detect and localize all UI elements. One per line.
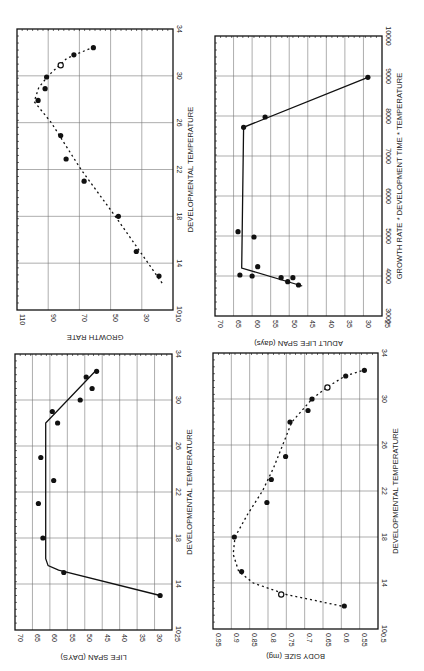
x-tick-label: 14: [175, 580, 182, 588]
x-tick-label: 34: [381, 349, 388, 357]
y-axis-label: BODY SIZE (mg): [266, 652, 325, 661]
data-point: [38, 455, 43, 460]
data-point: [365, 75, 370, 80]
y-tick-label: 90: [50, 314, 57, 322]
x-tick-label: 26: [381, 441, 388, 449]
data-point: [235, 229, 240, 234]
data-point: [43, 86, 48, 91]
y-axis-label: ADULT LIFE SPAN (days): [254, 339, 343, 348]
y-tick-label: 60: [51, 634, 58, 642]
y-tick-label: 70: [81, 314, 88, 322]
data-point: [279, 592, 284, 597]
x-tick-label: 34: [175, 350, 182, 358]
data-point: [285, 279, 290, 284]
data-point: [61, 570, 66, 575]
x-tick-label: 14: [176, 259, 183, 267]
data-point: [343, 373, 348, 378]
y-tick-label: 50: [112, 314, 119, 322]
y-tick-label: 25: [174, 634, 181, 642]
x-tick-label: 22: [175, 488, 182, 496]
data-point: [50, 409, 55, 414]
y-tick-label: 65: [34, 634, 41, 642]
data-point: [55, 420, 60, 425]
figure: 103050709011010141822263034DEVELOPMENTAL…: [0, 0, 424, 671]
y-tick-label: 70: [17, 634, 24, 642]
x-tick-label: 18: [175, 534, 182, 542]
y-tick-label: 0.95: [215, 633, 222, 647]
x-axis-label: DEVELOPMENTAL TEMPERATURE: [391, 428, 400, 554]
data-point: [237, 272, 242, 277]
y-tick-label: 30: [143, 314, 150, 322]
adult-life-span-panel: 2530354045505560657030004000500060007000…: [215, 26, 404, 348]
y-tick-label: 0.5: [380, 633, 387, 643]
data-point: [44, 74, 49, 79]
data-point: [94, 369, 99, 374]
x-tick-label: 3000: [385, 308, 392, 324]
y-tick-label: 0.8: [270, 633, 277, 643]
data-point: [290, 275, 295, 280]
y-tick-label: 40: [121, 634, 128, 642]
data-point: [279, 275, 284, 280]
y-tick-label: 10: [175, 314, 182, 322]
data-point: [296, 282, 301, 287]
data-point: [269, 477, 274, 482]
fit-line: [34, 48, 162, 283]
data-point: [91, 45, 96, 50]
data-point: [116, 214, 121, 219]
x-axis-label: GROWTH RATE * DEVELOPMENT TIME * TEMPERA…: [395, 73, 404, 280]
fit-line: [242, 77, 368, 286]
data-point: [40, 535, 45, 540]
data-point: [36, 98, 41, 103]
fit-line: [233, 370, 363, 606]
x-tick-label: 5000: [385, 228, 392, 244]
y-tick-label: 65: [235, 320, 242, 328]
data-point: [251, 234, 256, 239]
data-point: [58, 133, 63, 138]
y-tick-label: 60: [254, 320, 261, 328]
y-tick-label: 30: [156, 634, 163, 642]
data-point: [250, 273, 255, 278]
growth-rate-panel: 103050709011010141822263034DEVELOPMENTAL…: [17, 25, 195, 342]
data-point: [362, 368, 367, 373]
data-point: [82, 179, 87, 184]
x-tick-label: 14: [381, 579, 388, 587]
data-point: [51, 478, 56, 483]
x-tick-label: 34: [176, 25, 183, 33]
y-tick-label: 40: [328, 320, 335, 328]
y-tick-label: 0.9: [233, 633, 240, 643]
x-tick-label: 7000: [385, 148, 392, 164]
data-point: [84, 374, 89, 379]
y-tick-label: 0.65: [325, 633, 332, 647]
x-tick-label: 26: [175, 442, 182, 450]
y-tick-label: 35: [346, 320, 353, 328]
data-point: [325, 385, 330, 390]
data-point: [283, 454, 288, 459]
y-tick-label: 0.75: [288, 633, 295, 647]
data-point: [90, 386, 95, 391]
y-tick-label: 110: [19, 314, 26, 325]
x-tick-label: 10: [175, 626, 182, 634]
y-tick-label: 55: [69, 634, 76, 642]
x-tick-label: 10: [176, 306, 183, 314]
data-point: [78, 397, 83, 402]
body-size-panel: 0.50.550.60.650.70.750.80.850.90.9510141…: [213, 349, 400, 661]
x-tick-label: 8000: [385, 108, 392, 124]
x-tick-label: 26: [176, 119, 183, 127]
x-tick-label: 18: [381, 533, 388, 541]
y-tick-label: 45: [104, 634, 111, 642]
data-point: [158, 593, 163, 598]
y-tick-label: 45: [309, 320, 316, 328]
x-tick-label: 6000: [385, 188, 392, 204]
data-point: [134, 249, 139, 254]
data-point: [241, 125, 246, 130]
data-point: [71, 52, 76, 57]
data-point: [342, 603, 347, 608]
x-tick-label: 18: [176, 212, 183, 220]
data-point: [263, 114, 268, 119]
data-point: [287, 419, 292, 424]
x-axis-label: DEVELOPMENTAL TEMPERATURE: [186, 107, 195, 233]
x-tick-label: 9000: [385, 68, 392, 84]
y-axis-label: LIFE SPAN (DAYS): [60, 653, 127, 662]
data-point: [239, 569, 244, 574]
data-point: [58, 63, 63, 68]
